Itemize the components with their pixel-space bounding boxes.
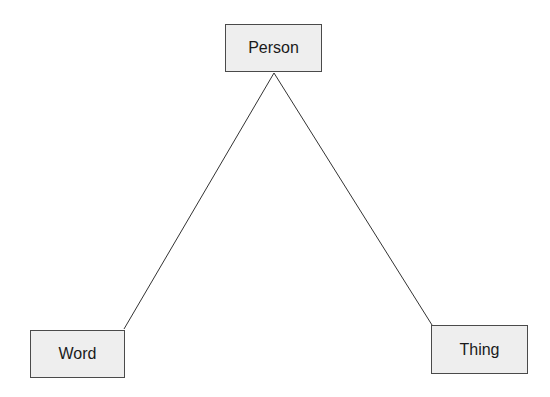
edge-person-thing bbox=[274, 73, 432, 325]
node-person-label: Person bbox=[248, 39, 299, 57]
node-word-label: Word bbox=[59, 345, 97, 363]
node-word: Word bbox=[30, 330, 125, 378]
node-thing: Thing bbox=[431, 325, 528, 374]
node-person: Person bbox=[225, 24, 322, 72]
diagram-canvas: Person Word Thing bbox=[0, 0, 550, 397]
node-thing-label: Thing bbox=[459, 341, 499, 359]
edge-person-word bbox=[124, 73, 274, 329]
